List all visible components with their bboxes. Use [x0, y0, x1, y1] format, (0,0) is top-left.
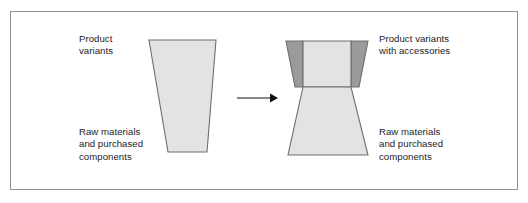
transformation-arrow [237, 94, 278, 103]
label-raw-materials-left: Raw materials and purchased components [79, 126, 143, 163]
diagram-screenshot: Product variants Raw materials and purch… [0, 0, 528, 203]
accessory-wing-left [286, 41, 303, 87]
label-product-variants: Product variants [79, 33, 113, 58]
accessory-wing-right [351, 41, 368, 87]
label-product-variants-with-accessories: Product variants with accessories [379, 33, 450, 58]
diagram-artwork [0, 0, 528, 203]
product-core-top [303, 41, 351, 87]
inverted-trapezoid-left [149, 40, 216, 152]
raw-materials-trapezoid-right [288, 87, 368, 155]
label-raw-materials-right: Raw materials and purchased components [379, 126, 443, 163]
